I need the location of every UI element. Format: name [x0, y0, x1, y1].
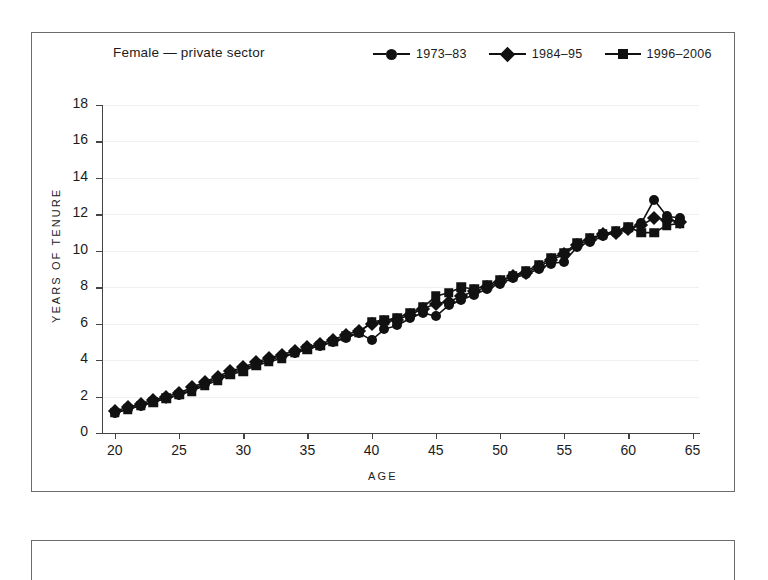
legend-item-1984-95[interactable]: 1984–95: [489, 47, 583, 61]
square-marker-icon: [251, 361, 261, 371]
y-tick-label: 14: [48, 168, 88, 184]
y-tick-label: 12: [48, 204, 88, 220]
legend-line-icon: [628, 53, 641, 56]
legend-line-icon: [605, 53, 618, 56]
legend-label: 1973–83: [416, 47, 467, 61]
square-marker-icon: [226, 370, 236, 380]
square-marker-icon: [149, 397, 159, 407]
y-tick-label: 0: [48, 423, 88, 439]
square-marker-icon: [187, 386, 197, 396]
x-tick-label: 40: [352, 442, 392, 458]
square-marker-icon: [624, 222, 634, 232]
y-tick-label: 4: [48, 350, 88, 366]
y-tick-label: 8: [48, 277, 88, 293]
y-tick-label: 6: [48, 314, 88, 330]
square-marker-icon: [662, 221, 672, 231]
y-tick-label: 16: [48, 131, 88, 147]
square-marker-icon: [470, 284, 480, 294]
next-figure-frame: [31, 540, 735, 580]
square-marker-icon: [200, 381, 210, 391]
square-marker-icon: [174, 390, 184, 400]
x-tick-label: 35: [287, 442, 327, 458]
square-marker-icon: [559, 248, 569, 258]
x-tick-label: 50: [480, 442, 520, 458]
legend-line-icon: [373, 53, 386, 56]
square-marker-icon: [495, 275, 505, 285]
square-marker-icon: [238, 366, 248, 376]
plot-area: 024681012141618 20253035404550556065: [102, 105, 699, 433]
square-marker-icon: [161, 394, 171, 404]
chart-legend: 1973–83 1984–95 1996–2006: [373, 47, 712, 61]
circle-marker-icon: [431, 311, 441, 321]
square-marker-icon: [547, 253, 557, 263]
circle-marker-icon: [386, 49, 397, 60]
panel-title: Female — private sector: [113, 45, 265, 60]
circle-marker-icon: [367, 335, 377, 345]
square-marker-icon: [354, 328, 364, 338]
y-tick-label: 10: [48, 241, 88, 257]
legend-label: 1996–2006: [647, 47, 712, 61]
diamond-marker-icon: [499, 46, 515, 62]
square-marker-icon: [290, 348, 300, 358]
x-tick-label: 20: [95, 442, 135, 458]
square-marker-icon: [521, 266, 531, 276]
square-marker-icon: [636, 228, 646, 238]
x-axis-line: [102, 433, 700, 434]
x-tick-label: 65: [673, 442, 713, 458]
square-marker-icon: [264, 357, 274, 367]
x-tick-label: 55: [544, 442, 584, 458]
square-marker-icon: [572, 239, 582, 249]
x-tick-label: 30: [223, 442, 263, 458]
square-marker-icon: [598, 230, 608, 240]
x-tick-label: 25: [159, 442, 199, 458]
square-marker-icon: [393, 313, 403, 323]
square-marker-icon: [611, 226, 621, 236]
square-marker-icon: [508, 272, 518, 282]
square-marker-icon: [123, 405, 133, 415]
square-marker-icon: [277, 354, 287, 364]
square-marker-icon: [328, 337, 338, 347]
x-tick-label: 45: [416, 442, 456, 458]
square-marker-icon: [534, 261, 544, 271]
legend-item-1973-83[interactable]: 1973–83: [373, 47, 467, 61]
square-marker-icon: [110, 408, 120, 418]
y-axis-line: [102, 105, 103, 434]
y-tick-label: 18: [48, 95, 88, 111]
legend-label: 1984–95: [532, 47, 583, 61]
figure-frame: Female — private sector 1973–83 1984–95 …: [31, 32, 735, 492]
square-marker-icon: [380, 315, 390, 325]
square-marker-icon: [649, 228, 659, 238]
square-marker-icon: [405, 308, 415, 318]
x-tick-label: 60: [608, 442, 648, 458]
square-marker-icon: [482, 281, 492, 291]
square-marker-icon: [316, 341, 326, 351]
square-marker-icon: [213, 375, 223, 385]
x-axis-label: AGE: [32, 470, 734, 482]
square-marker-icon: [341, 332, 351, 342]
square-marker-icon: [675, 219, 685, 229]
square-marker-icon: [367, 317, 377, 327]
square-marker-icon: [136, 401, 146, 411]
square-marker-icon: [585, 233, 595, 243]
square-marker-icon: [418, 303, 428, 313]
legend-item-1996-2006[interactable]: 1996–2006: [605, 47, 712, 61]
square-marker-icon: [618, 49, 628, 59]
y-tick-label: 2: [48, 387, 88, 403]
legend-line-icon: [397, 53, 410, 56]
square-marker-icon: [303, 344, 313, 354]
square-marker-icon: [444, 288, 454, 298]
square-marker-icon: [431, 292, 441, 302]
circle-marker-icon: [649, 195, 659, 205]
square-marker-icon: [457, 282, 467, 292]
